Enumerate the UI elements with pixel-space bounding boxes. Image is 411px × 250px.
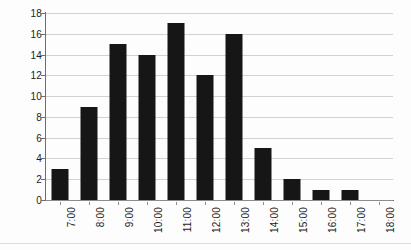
bar[interactable] <box>81 107 98 201</box>
y-tick-label: 4 <box>2 153 42 164</box>
bar-slot <box>248 13 277 200</box>
x-tick-mark <box>89 202 90 205</box>
scan-artifact-line <box>0 243 411 244</box>
y-tick-label: 18 <box>2 8 42 19</box>
y-tick-label: 10 <box>2 91 42 102</box>
bar-slot <box>46 13 75 200</box>
y-tick-label: 12 <box>2 70 42 81</box>
x-tick-mark <box>292 202 293 205</box>
x-tick-mark <box>321 202 322 205</box>
y-tick-label: 6 <box>2 132 42 143</box>
y-tick-label: 16 <box>2 28 42 39</box>
x-tick-label: 18:00 <box>384 207 395 233</box>
x-tick-mark <box>60 202 61 205</box>
x-tick-mark <box>263 202 264 205</box>
y-axis: 18 16 14 12 10 8 6 4 2 0 <box>0 13 42 200</box>
y-tick-label: 0 <box>2 195 42 206</box>
x-tick-mark <box>350 202 351 205</box>
x-tick-mark <box>234 202 235 205</box>
bar[interactable] <box>341 190 358 200</box>
bar[interactable] <box>225 34 242 200</box>
bar-slot <box>75 13 104 200</box>
bar-slot <box>104 13 133 200</box>
bar-slot <box>133 13 162 200</box>
bar-slot <box>364 13 393 200</box>
x-tick-mark <box>176 202 177 205</box>
bar[interactable] <box>197 75 214 200</box>
bar-slot <box>335 13 364 200</box>
bar-slot <box>277 13 306 200</box>
bar[interactable] <box>52 169 69 200</box>
y-tick-label: 2 <box>2 174 42 185</box>
bar[interactable] <box>254 148 271 200</box>
bar[interactable] <box>168 23 185 200</box>
y-tick-label: 14 <box>2 49 42 60</box>
bar[interactable] <box>312 190 329 200</box>
y-tick-label: 8 <box>2 111 42 122</box>
x-tick-mark <box>147 202 148 205</box>
bar-slot <box>306 13 335 200</box>
x-tick-mark <box>379 202 380 205</box>
bar-slot <box>162 13 191 200</box>
plot-area <box>46 13 393 200</box>
x-tick-mark <box>205 202 206 205</box>
gridline-baseline <box>46 200 393 201</box>
bar-slot <box>191 13 220 200</box>
bar[interactable] <box>139 55 156 200</box>
x-tick-mark <box>118 202 119 205</box>
bar[interactable] <box>283 179 300 200</box>
bar-slot <box>220 13 249 200</box>
bar[interactable] <box>110 44 127 200</box>
bar-chart-figure: 18 16 14 12 10 8 6 4 2 0 7:008: <box>0 0 411 250</box>
